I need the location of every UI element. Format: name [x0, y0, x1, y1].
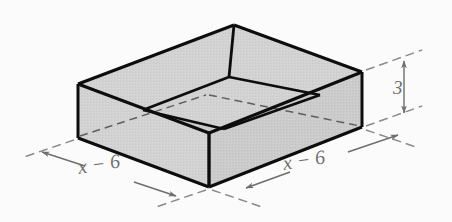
extension-line-height-top [366, 50, 422, 70]
dimension-arrow-right-upper [348, 135, 398, 152]
figure-container: x − 6 x − 6 3 [0, 0, 452, 222]
box-diagram-svg [0, 0, 452, 222]
extension-line-right-upper [366, 130, 416, 147]
extension-line-right-lower [212, 190, 262, 207]
dimension-arrow-right-lower [246, 172, 290, 188]
dimension-arrow-left-lower [134, 182, 176, 196]
extension-line-height-bottom [366, 106, 422, 126]
dimension-label-height: 3 [393, 77, 403, 99]
